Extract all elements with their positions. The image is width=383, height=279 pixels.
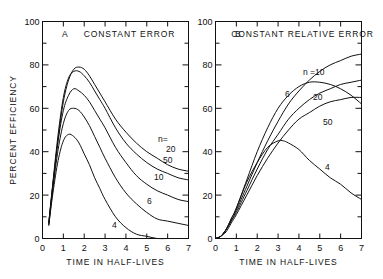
figure-container: 01234567020406080100ACONSTANT ERRORTIME … xyxy=(0,0,383,279)
x-tick-label: 2 xyxy=(82,243,87,253)
panel-b: 01234567020406080100BCONSTANT RELATIVE E… xyxy=(197,17,373,267)
x-axis-title: TIME IN HALF-LIVES xyxy=(66,257,164,267)
x-tick-label: 7 xyxy=(186,243,191,253)
curve-label-b-4: 4 xyxy=(325,162,330,172)
x-tick-label: 1 xyxy=(61,243,66,253)
y-tick-label: 20 xyxy=(202,191,212,201)
curve-label-a-10: 10 xyxy=(154,172,164,182)
curve-label-a-6: 6 xyxy=(147,196,152,206)
x-tick-label: 4 xyxy=(123,243,128,253)
x-tick-label: 6 xyxy=(338,243,343,253)
x-tick-label: 4 xyxy=(296,243,301,253)
x-tick-label: 2 xyxy=(255,243,260,253)
curve-label-b-50: 50 xyxy=(323,117,333,127)
curve-label-b-n-eq-10: n =10 xyxy=(303,67,325,77)
x-tick-label: 5 xyxy=(317,243,322,253)
y-tick-label: 20 xyxy=(29,191,39,201)
x-tick-label: 3 xyxy=(276,243,281,253)
series-curve-n-4 xyxy=(216,140,362,238)
chart-svg: 01234567020406080100ACONSTANT ERRORTIME … xyxy=(0,0,383,279)
y-tick-label: 0 xyxy=(207,234,212,244)
y-tick-label: 60 xyxy=(29,104,39,114)
curve-label-a-50: 50 xyxy=(163,155,173,165)
y-tick-label: 40 xyxy=(202,147,212,157)
plot-frame xyxy=(43,22,189,239)
y-tick-label: 100 xyxy=(197,17,212,27)
panel-letter: A xyxy=(62,29,68,39)
x-tick-label: 7 xyxy=(359,243,364,253)
y-tick-label: 100 xyxy=(24,17,39,27)
x-tick-label: 3 xyxy=(103,243,108,253)
panel-a: 01234567020406080100ACONSTANT ERRORTIME … xyxy=(8,17,191,267)
series-curve-n-6 xyxy=(49,108,189,225)
x-tick-label: 0 xyxy=(40,243,45,253)
x-tick-label: 1 xyxy=(234,243,239,253)
panel-title: CONSTANT ERROR xyxy=(84,29,176,39)
curve-label-a-20: 20 xyxy=(166,144,176,154)
y-tick-label: 80 xyxy=(29,60,39,70)
y-tick-label: 0 xyxy=(34,234,39,244)
x-axis-title: TIME IN HALF-LIVES xyxy=(239,257,337,267)
curve-label-b-20: 20 xyxy=(313,92,323,102)
x-tick-label: 0 xyxy=(213,243,218,253)
y-tick-label: 80 xyxy=(202,60,212,70)
curve-label-a-4: 4 xyxy=(112,220,117,230)
x-tick-label: 5 xyxy=(144,243,149,253)
curve-label-n-eq: n= xyxy=(158,134,168,144)
series-curve-n-6 xyxy=(216,82,362,239)
y-tick-label: 60 xyxy=(202,104,212,114)
y-tick-label: 40 xyxy=(29,147,39,157)
y-axis-title: PERCENT EFFICIENCY xyxy=(8,75,18,185)
x-tick-label: 6 xyxy=(165,243,170,253)
curve-label-b-6: 6 xyxy=(285,89,290,99)
panel-title: CONSTANT RELATIVE ERROR xyxy=(231,29,374,39)
